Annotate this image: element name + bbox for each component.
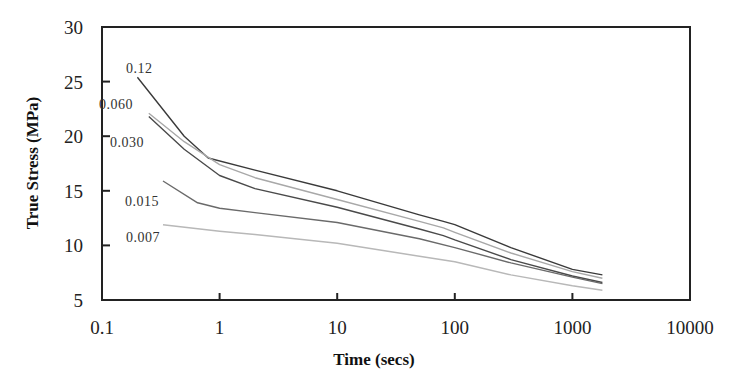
series-line-0.030 [149,117,603,283]
stress-relaxation-chart: 51015202530 0.1110100100010000 0.12 0.06… [0,0,741,389]
series-line-0.060 [149,113,603,278]
series-lines [137,77,602,290]
series-label-0.060: 0.060 [99,97,133,112]
x-tick-label: 0.1 [90,317,114,338]
x-tick-label: 10 [328,317,347,338]
y-axis-ticks: 51015202530 [64,17,110,311]
y-tick-label: 30 [64,17,83,38]
series-line-0.007 [163,225,602,291]
x-tick-label: 100 [441,317,470,338]
x-tick-label: 10000 [666,317,714,338]
x-tick-label: 1000 [553,317,591,338]
series-label-0.030: 0.030 [110,135,144,150]
series-line-0.12 [137,77,602,275]
y-tick-label: 5 [74,290,84,311]
y-tick-label: 20 [64,126,83,147]
series-label-0.007: 0.007 [126,230,160,245]
y-axis-title: True Stress (MPa) [23,97,42,230]
plot-frame [102,27,690,300]
y-tick-label: 25 [64,72,83,93]
series-label-0.12: 0.12 [126,61,153,76]
series-label-0.015: 0.015 [125,194,159,209]
x-axis-title: Time (secs) [333,350,414,369]
y-tick-label: 15 [64,181,83,202]
x-tick-label: 1 [215,317,225,338]
y-tick-label: 10 [64,235,83,256]
